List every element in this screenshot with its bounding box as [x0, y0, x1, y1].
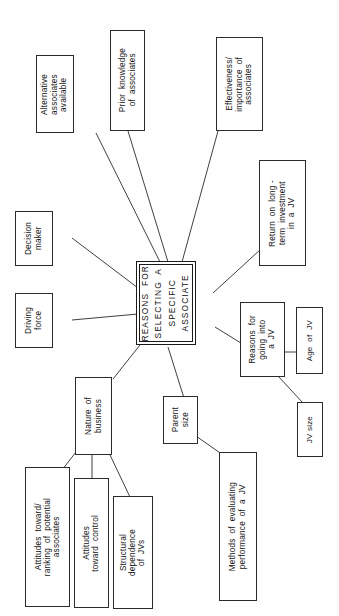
diagram-canvas: Alternative associates available Prior k…	[0, 0, 339, 616]
link-nature-of-business	[113, 345, 140, 379]
node-label: Decision maker	[24, 222, 43, 255]
node-label: Reasons for going into a JV	[248, 315, 277, 364]
link-parent-size	[168, 347, 184, 398]
node-label: Alternative associates available	[40, 74, 69, 115]
node-methods-evaluating[interactable]: Methods of evaluating performance of a J…	[219, 452, 257, 601]
node-attitudes-control[interactable]: Attitudes toward control	[74, 478, 109, 608]
node-structural-dependence[interactable]: Structural dependence of JVs	[113, 496, 153, 609]
link-driving-force	[72, 314, 138, 320]
node-reasons-going-into-jv[interactable]: Reasons for going into a JV	[240, 302, 285, 377]
node-label: Nature of business	[84, 397, 103, 435]
node-effectiveness-importance[interactable]: Effectiveness/ importance of associates	[216, 37, 263, 131]
link-jv-size	[278, 376, 303, 403]
node-label: Driving force	[24, 307, 43, 334]
node-label: Methods of evaluating performance of a J…	[228, 482, 247, 571]
link-return-investment	[213, 249, 261, 293]
node-label: Attitudes toward/ ranking of potential a…	[34, 498, 61, 576]
node-central-reasons-for-selecting[interactable]: REASONS FOR SELECTING A SPECIFIC ASSOCIA…	[136, 261, 196, 345]
link-alternative-associates	[96, 133, 160, 262]
node-label: REASONS FOR SELECTING A SPECIFIC ASSOCIA…	[139, 265, 193, 342]
node-label: Parent size	[171, 407, 190, 432]
node-label: Attitudes toward control	[82, 515, 100, 572]
node-label: Return on long - term investment in a JV	[268, 180, 297, 247]
node-decision-maker[interactable]: Decision maker	[15, 211, 53, 266]
node-age-of-jv[interactable]: Age of JV	[296, 307, 323, 374]
node-nature-of-business[interactable]: Nature of business	[75, 377, 112, 455]
node-label: Prior knowledge of associates	[118, 48, 137, 112]
link-prior-knowledge	[128, 131, 168, 262]
node-label: Age of JV	[305, 320, 314, 361]
node-return-on-investment[interactable]: Return on long - term investment in a JV	[259, 160, 306, 266]
node-label: Effectiveness/ importance of associates	[225, 57, 254, 112]
node-prior-knowledge[interactable]: Prior knowledge of associates	[110, 30, 145, 131]
node-label: JV size	[305, 416, 314, 443]
node-alternative-associates[interactable]: Alternative associates available	[36, 55, 74, 133]
node-driving-force[interactable]: Driving force	[15, 293, 53, 348]
node-parent-size[interactable]: Parent size	[163, 396, 198, 444]
node-attitudes-ranking[interactable]: Attitudes toward/ ranking of potential a…	[25, 467, 70, 607]
link-structural-dependence	[110, 455, 130, 497]
link-decision-maker	[72, 238, 138, 288]
node-jv-size[interactable]: JV size	[297, 402, 323, 457]
node-label: Structural dependence of JVs	[119, 529, 146, 576]
link-effectiveness	[182, 131, 218, 262]
